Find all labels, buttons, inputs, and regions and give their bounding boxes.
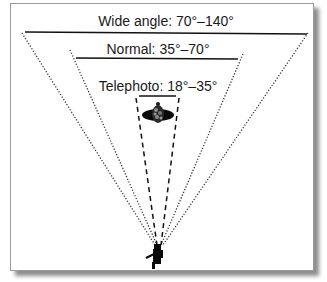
normal-label: Normal: 35°–70°: [106, 41, 209, 57]
telephoto-label: Telephoto: 18°–35°: [99, 78, 218, 94]
wide-angle-ray-right: [163, 33, 308, 245]
flower-icon: [142, 102, 174, 123]
wide-angle-ray-left: [22, 33, 155, 245]
normal-bar: [76, 58, 238, 59]
wide-angle-label: Wide angle: 70°–140°: [98, 13, 234, 29]
wide-angle-bar: [25, 32, 307, 34]
photographer-icon: [146, 244, 163, 269]
